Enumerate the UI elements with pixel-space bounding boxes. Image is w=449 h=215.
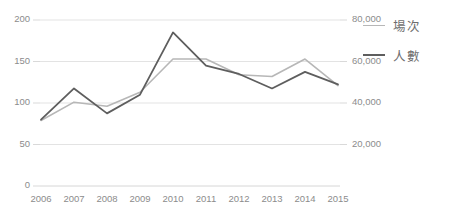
x-tick-label-2015: 2015 (321, 194, 355, 204)
legend-label-renshu: 人數 (393, 46, 420, 65)
legend-line-icon-changci (363, 25, 385, 26)
y-left-tick-label-100: 100 (0, 97, 30, 107)
chart-legend: 場次 人數 (363, 14, 449, 74)
y-left-tick-label-150: 150 (0, 56, 30, 66)
x-tick-label-2008: 2008 (90, 194, 124, 204)
series-lines (41, 32, 338, 120)
y-left-tick-label-50: 50 (0, 139, 30, 149)
x-tick-label-2009: 2009 (123, 194, 157, 204)
legend-item-renshu[interactable]: 人數 (363, 44, 449, 66)
series-line-changci (41, 59, 338, 120)
legend-line-icon-renshu (363, 54, 385, 56)
x-tick-label-2012: 2012 (222, 194, 256, 204)
legend-item-changci[interactable]: 場次 (363, 14, 449, 36)
legend-label-changci: 場次 (393, 16, 420, 35)
x-tick-label-2010: 2010 (156, 194, 190, 204)
y-left-tick-label-200: 200 (0, 14, 30, 24)
x-tick-label-2011: 2011 (189, 194, 223, 204)
y-left-tick-label-0: 0 (0, 180, 30, 190)
y-right-tick-label-20000: 20,000 (352, 139, 402, 149)
x-tick-label-2014: 2014 (288, 194, 322, 204)
series-line-renshu (41, 32, 338, 119)
y-right-tick-label-40000: 40,000 (352, 97, 402, 107)
line-chart: 200 150 100 50 0 80,000 60,000 40,000 20… (0, 0, 449, 215)
x-tick-label-2006: 2006 (24, 194, 58, 204)
x-tick-label-2007: 2007 (57, 194, 91, 204)
x-tick-label-2013: 2013 (255, 194, 289, 204)
